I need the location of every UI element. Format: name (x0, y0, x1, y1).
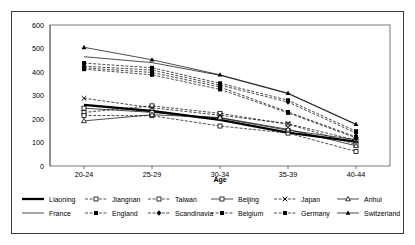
y-tick-label: 200 (32, 115, 44, 124)
data-point-marker (218, 87, 222, 91)
data-point-marker (94, 197, 98, 201)
data-point-marker (283, 211, 287, 215)
x-axis-title: Age (213, 176, 226, 184)
legend-label: Liaoning (49, 196, 76, 204)
data-point-marker (354, 129, 358, 133)
chart-screenshot: 0100200300400500600 20-2425-2930-3435-39… (0, 0, 415, 245)
data-point-marker (150, 66, 154, 70)
data-point-marker (82, 67, 86, 71)
legend-label: Germany (301, 210, 330, 218)
data-point-marker (82, 113, 86, 117)
data-point-marker (157, 197, 161, 201)
data-point-marker (286, 111, 290, 115)
legend-label: Scandinavia (175, 210, 213, 217)
data-point-marker (286, 98, 290, 102)
y-tick-label: 600 (32, 21, 44, 30)
data-point-marker (82, 45, 87, 49)
x-tick-label: 40-44 (347, 170, 365, 179)
legend-label: Belgium (238, 210, 263, 218)
data-point-marker (218, 81, 222, 85)
data-point-marker (218, 124, 222, 128)
legend-label: Switzerland (364, 210, 400, 217)
data-point-marker (82, 61, 86, 65)
data-point-marker (94, 211, 98, 215)
data-point-marker (346, 196, 351, 200)
data-point-marker (150, 73, 154, 77)
y-tick-label: 400 (32, 68, 44, 77)
legend-label: Beijing (238, 196, 259, 204)
data-point-marker (346, 210, 351, 214)
legend-label: England (112, 210, 138, 218)
y-tick-label: 300 (32, 91, 44, 100)
data-point-marker (82, 106, 86, 110)
chart-canvas: 0100200300400500600 20-2425-2930-3435-39… (0, 0, 415, 245)
legend-label: Japan (301, 196, 320, 204)
y-tick-label: 100 (32, 138, 44, 147)
plot-area-border (50, 25, 390, 166)
legend-label: Taiwan (175, 196, 197, 203)
legend-label: France (49, 210, 71, 217)
series-lines (84, 47, 356, 151)
chart-legend: LiaoningJiangnanTaiwanBeijingJapanAnhuiF… (22, 196, 400, 218)
x-tick-label: 25-29 (143, 170, 161, 179)
legend-label: Anhui (364, 196, 382, 203)
y-tick-label: 0 (40, 162, 44, 171)
x-tick-label: 20-24 (75, 170, 93, 179)
data-point-marker (354, 149, 358, 153)
data-point-marker (220, 211, 224, 215)
data-point-marker (354, 136, 358, 140)
x-tick-label: 35-39 (279, 170, 297, 179)
legend-label: Jiangnan (112, 196, 141, 204)
y-tick-label: 500 (32, 44, 44, 53)
data-point-marker (157, 210, 162, 215)
data-point-marker (220, 197, 224, 201)
y-tick-labels: 0100200300400500600 (32, 21, 44, 171)
